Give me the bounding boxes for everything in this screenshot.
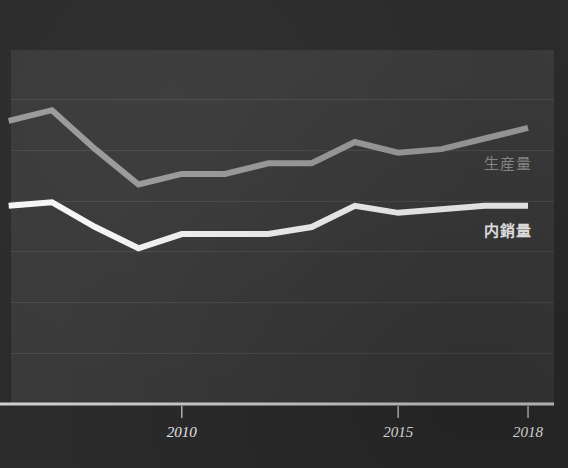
x-axis-tick-label: 2010 [167, 424, 198, 440]
legend-label-domestic: 内銷量 [484, 219, 532, 240]
x-axis-tick-label: 2015 [383, 424, 414, 440]
series-line-domestic [9, 202, 528, 248]
legend-label-production: 生産量 [484, 152, 532, 173]
series-group [9, 110, 528, 248]
x-axis-ticks-group [182, 406, 528, 418]
chart-canvas: 201020152018 [0, 0, 568, 468]
x-axis-tick-label: 2018 [513, 424, 544, 440]
series-line-production [9, 110, 528, 184]
x-axis-tick-labels-group: 201020152018 [167, 424, 544, 440]
chart-container: 201020152018 生産量 内銷量 [0, 0, 568, 468]
